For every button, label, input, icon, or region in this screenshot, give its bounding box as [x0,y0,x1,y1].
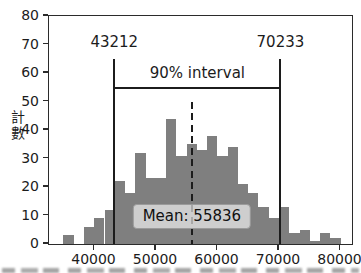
histogram-bar [94,218,104,244]
x-tick-mark [154,245,156,250]
y-tick-mark [43,14,48,16]
y-tick-label: 20 [9,178,39,194]
histogram-bar [310,241,320,244]
x-tick-label: 50000 [133,251,178,267]
y-tick-mark [43,214,48,216]
histogram-bar [135,153,145,244]
y-tick-mark [43,242,48,244]
x-tick-mark [93,245,95,250]
histogram-bar [258,207,268,244]
x-tick-mark [216,245,218,250]
y-tick-mark [43,100,48,102]
x-tick-mark [277,245,279,250]
interval-bracket-line [114,87,280,89]
cropped-caption-remnant [2,268,359,273]
y-tick-label: 60 [9,64,39,80]
y-tick-mark [43,157,48,159]
histogram-bar [63,235,73,244]
mean-label-box: Mean: 55836 [133,204,251,229]
y-tick-mark [43,185,48,187]
y-tick-mark [43,71,48,73]
histogram-bar [217,156,227,244]
x-tick-mark [339,245,341,250]
histogram-bar [197,150,207,244]
y-tick-label: 80 [9,7,39,23]
interval-label: 90% interval [150,64,245,82]
y-tick-label: 30 [9,150,39,166]
histogram-bar [84,227,94,244]
x-tick-label: 40000 [71,251,116,267]
lower-bound-label: 43212 [90,33,138,51]
upper-bound-label: 70233 [257,33,305,51]
histogram-bar [300,230,310,244]
histogram-figure: 43212 70233 90% interval Mean: 55836 計數 … [0,0,361,273]
histogram-bar [320,233,330,244]
y-tick-label: 10 [9,207,39,223]
y-tick-mark [43,43,48,45]
y-tick-label: 40 [9,121,39,137]
histogram-bar [176,156,186,244]
x-tick-label: 60000 [194,251,239,267]
y-tick-mark [43,128,48,130]
plot-area: 43212 70233 90% interval Mean: 55836 [48,15,353,245]
histogram-bar [115,181,125,244]
histogram-bar [330,238,340,244]
histogram-bar [228,147,238,244]
mean-label-text: Mean: 55836 [143,207,241,225]
x-tick-label: 80000 [317,251,361,267]
histogram-bar [269,218,279,244]
y-tick-label: 50 [9,93,39,109]
y-tick-label: 0 [9,235,39,251]
y-tick-label: 70 [9,36,39,52]
histogram-bar [289,233,299,244]
x-tick-label: 70000 [256,251,301,267]
